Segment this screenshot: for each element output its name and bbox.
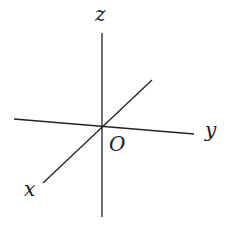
origin-label: O <box>109 132 125 156</box>
y-axis <box>14 119 194 134</box>
x-axis-label: x <box>24 177 35 201</box>
z-axis-label: z <box>94 2 106 26</box>
y-axis-label: y <box>204 118 217 142</box>
x-axis <box>43 80 152 183</box>
axes-diagram: z y O x <box>0 0 233 227</box>
